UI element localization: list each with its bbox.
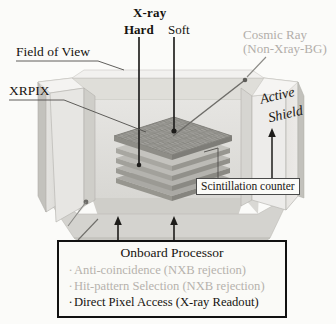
label-cosmic-ray-line2: (Non-Xray-BG) xyxy=(243,42,327,56)
label-field-of-view: Field of View xyxy=(16,45,90,60)
processor-item-direct-pixel-access-label: Direct Pixel Access (X-ray Readout) xyxy=(74,295,259,309)
bullet-icon: · xyxy=(67,294,74,310)
processor-item-hit-pattern: ·Hit-pattern Selection (NXB rejection) xyxy=(67,278,285,294)
onboard-processor-box: Onboard Processor ·Anti-coincidence (NXB… xyxy=(57,240,287,318)
bullet-icon: · xyxy=(67,278,74,294)
label-hard: Hard xyxy=(124,23,154,37)
label-xrpix: XRPIX xyxy=(9,84,50,99)
label-scintillation-counter: Scintillation counter xyxy=(196,178,300,195)
label-xray: X-ray xyxy=(133,6,167,20)
processor-item-direct-pixel-access: ·Direct Pixel Access (X-ray Readout) xyxy=(67,294,285,310)
label-soft: Soft xyxy=(168,23,190,37)
onboard-processor-header: Onboard Processor xyxy=(59,245,285,262)
onboard-processor-list: ·Anti-coincidence (NXB rejection) ·Hit-p… xyxy=(59,262,285,311)
label-cosmic-ray-line1: Cosmic Ray xyxy=(243,27,307,42)
processor-item-anti-coincidence-label: Anti-coincidence (NXB rejection) xyxy=(74,263,246,277)
label-cosmic-ray: Cosmic Ray (Non-Xray-BG) xyxy=(243,28,327,56)
processor-item-hit-pattern-label: Hit-pattern Selection (NXB rejection) xyxy=(74,279,265,293)
bullet-icon: · xyxy=(67,262,74,278)
processor-item-anti-coincidence: ·Anti-coincidence (NXB rejection) xyxy=(67,262,285,278)
figure-canvas: X-ray Hard Soft Cosmic Ray (Non-Xray-BG)… xyxy=(0,0,336,324)
